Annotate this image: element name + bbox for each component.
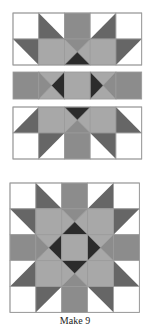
quilt-assembly-diagram bbox=[0, 0, 150, 329]
middle-strip bbox=[13, 72, 142, 99]
top-strip bbox=[13, 13, 142, 65]
finished-block bbox=[10, 183, 139, 312]
bottom-strip bbox=[13, 107, 142, 159]
caption-make-count: Make 9 bbox=[0, 315, 150, 326]
